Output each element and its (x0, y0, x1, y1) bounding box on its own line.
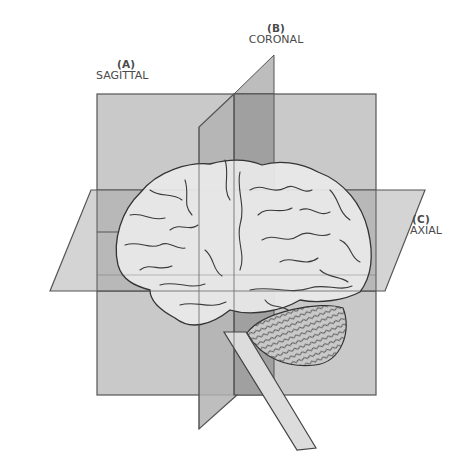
axial-name: AXIAL (410, 225, 450, 237)
coronal-plane-back (234, 55, 274, 94)
cerebrum (116, 160, 371, 325)
label-coronal: (B) CORONAL (236, 22, 316, 46)
label-sagittal: (A) SAGITTAL (96, 58, 166, 82)
label-axial: (C) AXIAL (410, 213, 450, 237)
sagittal-name: SAGITTAL (96, 70, 166, 82)
brain-planes-diagram (0, 0, 471, 475)
coronal-name: CORONAL (236, 34, 316, 46)
